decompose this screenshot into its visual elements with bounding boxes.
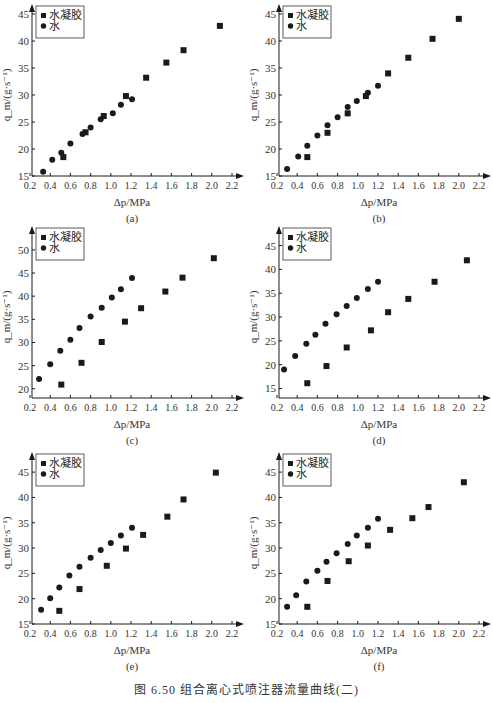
legend: 水凝胶水 xyxy=(283,228,331,260)
data-point-water xyxy=(365,525,371,531)
x-tick-label: 1.2 xyxy=(372,180,385,191)
scatter-plot-d: 0.20.40.60.81.01.21.41.61.82.02.21520253… xyxy=(247,222,493,452)
data-point-water xyxy=(354,295,360,301)
data-point-hydrogel xyxy=(58,382,64,388)
data-point-water xyxy=(109,295,115,301)
y-tick-label: 45 xyxy=(18,267,30,279)
x-tick-label: 1.0 xyxy=(105,628,118,639)
y-axis-label: q_m/(g·s⁻¹) xyxy=(0,516,13,569)
y-axis-label: q_m/(g·s⁻¹) xyxy=(247,290,260,343)
x-tick-label: 2.0 xyxy=(206,180,219,191)
x-tick-label: 1.8 xyxy=(432,628,445,639)
data-point-water xyxy=(314,133,320,139)
y-axis-arrow-icon xyxy=(29,226,35,234)
x-tick-label: 0.2 xyxy=(271,402,284,413)
data-point-water xyxy=(303,578,309,584)
chart-panel-d: 0.20.40.60.81.01.21.41.61.82.02.21520253… xyxy=(247,222,493,452)
x-tick-label: 0.8 xyxy=(84,180,97,191)
y-tick-label: 20 xyxy=(265,359,277,371)
square-marker-icon xyxy=(288,461,293,466)
data-point-hydrogel xyxy=(405,55,411,61)
y-tick-label: 45 xyxy=(265,466,277,478)
chart-panel-e: 0.20.40.60.81.01.21.41.61.82.02.21520253… xyxy=(0,448,246,678)
data-point-water xyxy=(293,592,299,598)
circle-marker-icon xyxy=(288,471,293,476)
data-point-hydrogel xyxy=(325,130,331,136)
x-axis-arrow-icon xyxy=(483,395,491,401)
y-tick-label: 25 xyxy=(18,567,30,579)
data-point-water xyxy=(129,525,135,531)
x-tick-label: 1.6 xyxy=(165,180,178,191)
data-point-water xyxy=(58,150,64,156)
scatter-plot-c: 0.20.40.60.81.01.21.41.61.82.02.22025303… xyxy=(0,222,246,452)
data-point-water xyxy=(375,279,381,285)
data-point-water xyxy=(284,166,290,172)
data-point-water xyxy=(303,341,309,347)
square-marker-icon xyxy=(288,235,293,240)
x-tick-label: 0.8 xyxy=(84,402,97,413)
data-point-hydrogel xyxy=(122,319,128,325)
x-tick-label: 0.4 xyxy=(44,402,57,413)
legend: 水凝胶水 xyxy=(36,454,84,486)
data-point-hydrogel xyxy=(304,154,310,160)
data-point-water xyxy=(354,532,360,538)
data-point-hydrogel xyxy=(345,110,351,116)
svg-text:水: 水 xyxy=(49,468,60,481)
x-axis-arrow-icon xyxy=(483,173,491,179)
chart-panel-b: 0.20.40.60.81.01.21.41.61.82.02.21520253… xyxy=(247,0,493,230)
data-point-water xyxy=(99,305,105,311)
square-marker-icon xyxy=(288,13,293,18)
y-axis-label: q_m/(g·s⁻¹) xyxy=(247,516,260,569)
x-tick-label: 2.2 xyxy=(473,628,486,639)
data-point-hydrogel xyxy=(162,289,168,295)
data-point-water xyxy=(108,540,114,546)
svg-text:水: 水 xyxy=(49,20,60,33)
svg-text:水: 水 xyxy=(49,242,60,255)
data-point-hydrogel xyxy=(76,586,82,592)
svg-text:水: 水 xyxy=(296,468,307,481)
data-point-water xyxy=(344,303,350,309)
data-point-hydrogel xyxy=(99,339,105,345)
data-point-hydrogel xyxy=(432,279,438,285)
scatter-plot-e: 0.20.40.60.81.01.21.41.61.82.02.21520253… xyxy=(0,448,246,678)
data-point-water xyxy=(304,143,310,149)
y-tick-label: 25 xyxy=(265,335,277,347)
data-point-hydrogel xyxy=(385,309,391,315)
y-tick-label: 50 xyxy=(18,244,30,256)
x-axis-label: Δp/MPa xyxy=(114,196,151,208)
x-tick-label: 0.4 xyxy=(291,628,304,639)
x-tick-label: 1.8 xyxy=(185,628,198,639)
x-axis-arrow-icon xyxy=(236,621,244,627)
x-tick-label: 0.6 xyxy=(64,402,77,413)
y-tick-label: 35 xyxy=(265,517,277,529)
data-point-hydrogel xyxy=(104,563,110,569)
data-point-hydrogel xyxy=(387,527,393,533)
data-point-water xyxy=(118,286,124,292)
y-tick-label: 15 xyxy=(265,618,277,630)
x-tick-label: 0.6 xyxy=(64,628,77,639)
svg-text:水: 水 xyxy=(296,242,307,255)
data-point-water xyxy=(284,604,290,610)
y-tick-label: 25 xyxy=(18,116,30,128)
data-point-water xyxy=(345,541,351,547)
data-point-hydrogel xyxy=(464,257,470,263)
x-tick-label: 2.0 xyxy=(206,628,219,639)
circle-marker-icon xyxy=(41,23,46,28)
data-point-hydrogel xyxy=(180,275,186,281)
data-point-water xyxy=(335,114,341,120)
panel-label: (e) xyxy=(126,660,139,673)
data-point-water xyxy=(281,366,287,372)
data-point-hydrogel xyxy=(181,496,187,502)
x-tick-label: 0.6 xyxy=(311,180,324,191)
chart-panel-c: 0.20.40.60.81.01.21.41.61.82.02.22025303… xyxy=(0,222,246,452)
x-tick-label: 2.2 xyxy=(473,402,486,413)
x-axis-arrow-icon xyxy=(236,173,244,179)
y-axis-arrow-icon xyxy=(276,226,282,234)
y-tick-label: 30 xyxy=(265,89,277,101)
data-point-water xyxy=(325,122,331,128)
y-axis-label: q_m/(g·s⁻¹) xyxy=(0,290,13,343)
x-tick-label: 1.8 xyxy=(185,402,198,413)
x-tick-label: 1.2 xyxy=(125,628,138,639)
data-point-hydrogel xyxy=(456,16,462,22)
y-axis-arrow-icon xyxy=(276,452,282,460)
